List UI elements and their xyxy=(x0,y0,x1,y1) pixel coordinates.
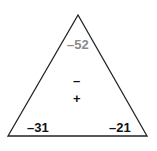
bottom-right-value: –21 xyxy=(109,121,131,134)
minus-operation: – xyxy=(73,74,80,87)
bottom-left-value: –31 xyxy=(27,121,49,134)
top-value: –52 xyxy=(67,38,89,51)
plus-operation: + xyxy=(73,92,81,105)
